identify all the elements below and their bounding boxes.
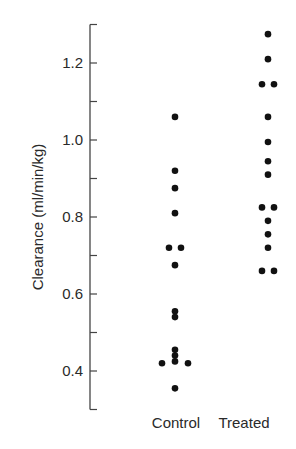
data-point-control: [172, 314, 179, 321]
data-point-treated: [265, 139, 272, 146]
data-point-treated: [271, 268, 278, 275]
data-point-control: [172, 347, 179, 354]
data-point-control: [172, 262, 179, 269]
x-category-label-treated: Treated: [218, 414, 269, 431]
data-point-treated: [265, 171, 272, 178]
data-point-control: [172, 358, 179, 365]
data-points: [159, 31, 278, 392]
data-point-control: [178, 245, 185, 252]
data-point-control: [172, 352, 179, 359]
data-point-treated: [265, 218, 272, 225]
y-tick-label: 0.8: [62, 208, 83, 225]
y-tick-label: 0.4: [62, 362, 83, 379]
data-point-control: [172, 185, 179, 192]
data-point-treated: [265, 231, 272, 238]
data-point-control: [172, 308, 179, 315]
data-point-control: [172, 210, 179, 217]
y-tick-label: 0.6: [62, 285, 83, 302]
y-ticks: 0.40.60.81.01.2: [62, 25, 97, 410]
data-point-treated: [259, 268, 266, 275]
data-point-treated: [265, 158, 272, 165]
x-category-label-control: Control: [152, 414, 200, 431]
data-point-control: [166, 245, 173, 252]
data-point-control: [172, 168, 179, 175]
y-axis-label: Clearance (ml/min/kg): [29, 144, 46, 291]
y-tick-label: 1.0: [62, 131, 83, 148]
data-point-control: [172, 114, 179, 121]
data-point-treated: [265, 31, 272, 38]
y-tick-label: 1.2: [62, 54, 83, 71]
data-point-treated: [265, 56, 272, 63]
scatter-chart: 0.40.60.81.01.2 Clearance (ml/min/kg) Co…: [0, 0, 296, 449]
data-point-treated: [265, 114, 272, 121]
data-point-treated: [259, 204, 266, 211]
data-point-treated: [265, 245, 272, 252]
data-point-treated: [259, 81, 266, 88]
data-point-treated: [271, 204, 278, 211]
data-point-control: [172, 385, 179, 392]
data-point-control: [159, 360, 166, 367]
data-point-treated: [271, 81, 278, 88]
data-point-control: [185, 360, 192, 367]
